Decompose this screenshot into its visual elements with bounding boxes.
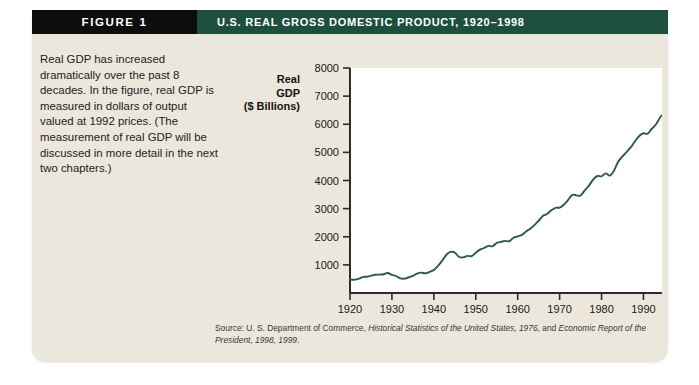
y-tick-label: 6000 xyxy=(315,118,339,130)
y-tick-label: 8000 xyxy=(315,62,339,74)
figure-card: FIGURE 1 U.S. Real Gross Domestic Produc… xyxy=(32,10,668,362)
figure-title-bar: U.S. Real Gross Domestic Product, 1920–1… xyxy=(197,10,668,34)
y-tick-label: 7000 xyxy=(315,90,339,102)
x-tick-label: 1930 xyxy=(380,303,404,315)
x-tick-label: 1960 xyxy=(505,303,529,315)
plot-background xyxy=(350,68,662,293)
x-axis-label: Year xyxy=(653,314,662,315)
source-note: Source: U. S. Department of Commerce, Hi… xyxy=(215,322,647,346)
y-tick-label: 4000 xyxy=(315,175,339,187)
x-tick-label: 1920 xyxy=(338,303,362,315)
y-tick-label: 5000 xyxy=(315,146,339,158)
figure-title-text: U.S. Real Gross Domestic Product, 1920–1… xyxy=(217,16,525,28)
chart-area: 10002000300040005000600070008000 1920193… xyxy=(272,50,662,315)
y-tick-label: 3000 xyxy=(315,203,339,215)
x-tick-label: 1940 xyxy=(422,303,446,315)
figure-header-bar: FIGURE 1 U.S. Real Gross Domestic Produc… xyxy=(32,10,668,34)
y-tick-label: 2000 xyxy=(315,231,339,243)
figure-description: Real GDP has increased dramatically over… xyxy=(40,52,220,177)
figure-number-label: FIGURE 1 xyxy=(32,10,197,34)
source-prefix: Source: U. S. Department of Commerce, xyxy=(215,323,368,333)
y-tick-label: 1000 xyxy=(315,259,339,271)
x-tick-label: 1950 xyxy=(464,303,488,315)
gdp-line-chart: 10002000300040005000600070008000 1920193… xyxy=(272,50,662,315)
source-suffix: . xyxy=(297,335,299,345)
source-middle: , and xyxy=(538,323,559,333)
x-tick-label: 1970 xyxy=(547,303,571,315)
y-axis-ticks: 10002000300040005000600070008000 xyxy=(315,62,350,271)
x-tick-label: 1980 xyxy=(589,303,613,315)
x-axis-ticks: 192019301940195019601970198019901998 xyxy=(338,293,662,315)
source-italic-1: Historical Statistics of the United Stat… xyxy=(368,323,537,333)
